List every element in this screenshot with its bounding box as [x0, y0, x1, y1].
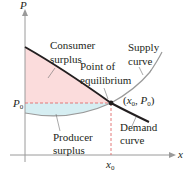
equilibrium-coordinates-label: (x0, P0) — [123, 94, 155, 108]
supply-label-line2: curve — [128, 55, 153, 67]
consumer-surplus-label-line1: Consumer — [50, 39, 96, 51]
equilibrium-point — [109, 101, 114, 106]
producer-surplus-region — [25, 103, 111, 116]
producer-surplus-label-line2: surplus — [53, 144, 85, 156]
supply-demand-diagram: P x P0 x0 Consumer surplus Point of equi… — [0, 0, 190, 179]
supply-label-line1: Supply — [128, 41, 160, 53]
producer-surplus-pointer — [56, 114, 60, 131]
x-axis-label: x — [177, 148, 183, 160]
demand-label-line2: curve — [120, 134, 145, 146]
demand-label-line1: Demand — [120, 121, 158, 133]
equilibrium-label-line2: equilibrium — [80, 74, 132, 86]
x0-tick-label: x0 — [105, 158, 115, 172]
y-axis-label: P — [19, 0, 27, 11]
supply-pointer — [139, 67, 143, 75]
producer-surplus-label-line1: Producer — [53, 131, 93, 143]
consumer-surplus-label-line2: surplus — [50, 53, 82, 65]
x-axis-arrow-icon — [169, 152, 176, 158]
equilibrium-label-line1: Point of — [80, 60, 115, 72]
p0-tick-label: P0 — [12, 97, 24, 111]
